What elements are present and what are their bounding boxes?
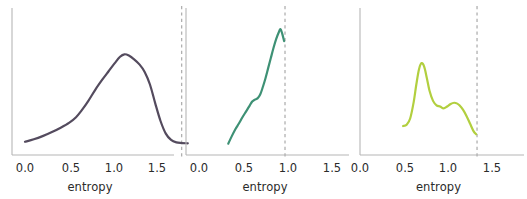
panel-1: 0.00.51.01.5entropy [0, 0, 180, 199]
x-tick-label: 0.5 [62, 161, 80, 175]
panel-2: 0.00.51.01.5entropy [175, 0, 355, 199]
density-plot-figure: 0.00.51.01.5entropy 0.00.51.01.5entropy … [0, 0, 527, 199]
x-tick-label: 0.0 [190, 161, 208, 175]
x-tick-label: 1.0 [279, 161, 297, 175]
x-tick-label: 1.0 [105, 161, 123, 175]
x-tick-label: 1.5 [148, 161, 166, 175]
x-tick-label: 0.5 [396, 161, 414, 175]
x-tick-label: 0.0 [351, 161, 369, 175]
x-tick-label: 0.5 [235, 161, 253, 175]
x-axis-label: entropy [350, 180, 527, 194]
x-tick-label: 1.5 [323, 161, 341, 175]
x-tick-label: 0.0 [16, 161, 34, 175]
x-tick-label: 1.0 [439, 161, 457, 175]
density-curve [228, 29, 284, 144]
density-curve [403, 63, 476, 134]
panel-3: 0.00.51.01.5entropy [350, 0, 527, 199]
density-curve [25, 54, 188, 143]
x-tick-label: 1.5 [483, 161, 501, 175]
x-axis-label: entropy [0, 180, 180, 194]
x-axis-label: entropy [175, 180, 355, 194]
